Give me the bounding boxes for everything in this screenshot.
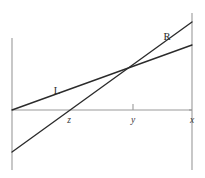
line-l-label: L: [54, 85, 60, 96]
tick-label-y: y: [130, 115, 136, 125]
tick-label-z: z: [66, 115, 71, 125]
tick-label-x: x: [189, 115, 195, 125]
line-diagram: L R z y x: [0, 0, 205, 178]
line-l: [12, 45, 192, 110]
figure-container: L R z y x: [0, 0, 205, 178]
line-r-label: R: [163, 31, 170, 42]
